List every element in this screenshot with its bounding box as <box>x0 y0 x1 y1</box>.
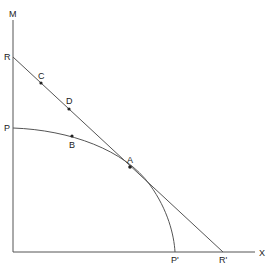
diagram-canvas: M X R P C D B A P' R' <box>0 0 271 275</box>
label-r: R <box>4 52 11 62</box>
line-rr <box>13 57 223 252</box>
label-c: C <box>38 71 45 81</box>
curve-pp <box>13 128 175 252</box>
point-b <box>70 134 73 137</box>
point-a <box>128 165 132 169</box>
x-axis-label: X <box>259 248 265 258</box>
label-p: P <box>4 123 10 133</box>
label-d: D <box>66 96 73 106</box>
label-b: B <box>69 140 75 150</box>
label-p-prime: P' <box>171 255 179 265</box>
label-r-prime: R' <box>219 255 227 265</box>
point-c <box>39 81 42 84</box>
label-a: A <box>127 155 133 165</box>
y-axis-label: M <box>9 9 17 19</box>
point-d <box>67 107 70 110</box>
